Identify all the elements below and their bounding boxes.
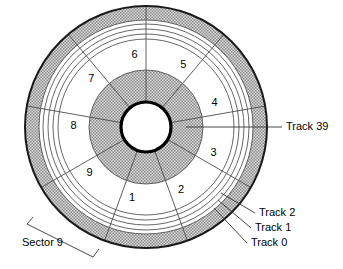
sector-label-9: 9 bbox=[87, 166, 93, 178]
sector-9-label: Sector 9 bbox=[22, 236, 63, 248]
disk-diagram-root: 123456789 Track 39Track 2Track 1Track 0 … bbox=[0, 0, 343, 269]
track-0-label: Track 0 bbox=[251, 236, 287, 248]
spindle-hub bbox=[121, 102, 171, 152]
sector-label-3: 3 bbox=[211, 146, 217, 158]
sector-label-7: 7 bbox=[88, 72, 94, 84]
sector-label-4: 4 bbox=[211, 96, 217, 108]
track-1-label: Track 1 bbox=[255, 221, 291, 233]
sector-label-8: 8 bbox=[70, 119, 76, 131]
disk-platter-diagram: 123456789 Track 39Track 2Track 1Track 0 … bbox=[0, 0, 343, 269]
sector-label-5: 5 bbox=[180, 58, 186, 70]
track-2-label: Track 2 bbox=[259, 206, 295, 218]
sector-label-2: 2 bbox=[178, 183, 184, 195]
sector-label-1: 1 bbox=[129, 191, 135, 203]
sector-label-6: 6 bbox=[132, 48, 138, 60]
track-39-label: Track 39 bbox=[286, 120, 328, 132]
